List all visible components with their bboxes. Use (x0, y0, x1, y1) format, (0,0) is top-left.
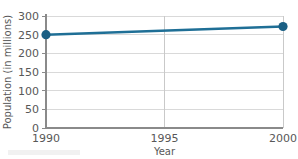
y-tick-label-100: 100 (18, 85, 39, 98)
y-tick-label-50: 50 (25, 103, 39, 116)
y-axis-title: Population (in millions) (2, 15, 13, 129)
y-tick-label-250: 250 (18, 29, 39, 42)
y-tick-label-200: 200 (18, 47, 39, 60)
x-tick-label-1995: 1995 (151, 132, 179, 145)
x-tick-label-1990: 1990 (32, 132, 60, 145)
data-point-2000 (278, 22, 287, 31)
x-axis-title: Year (153, 146, 176, 157)
data-point-1990 (41, 30, 50, 39)
y-tick-label-300: 300 (18, 10, 39, 23)
population-line-chart: 300 250 200 150 100 50 0 1990 1995 2000 … (0, 0, 298, 159)
x-tick-label-2000: 2000 (269, 132, 297, 145)
chart-canvas: 300 250 200 150 100 50 0 1990 1995 2000 … (0, 0, 298, 159)
y-tick-label-150: 150 (18, 66, 39, 79)
scan-artifact (8, 150, 80, 155)
